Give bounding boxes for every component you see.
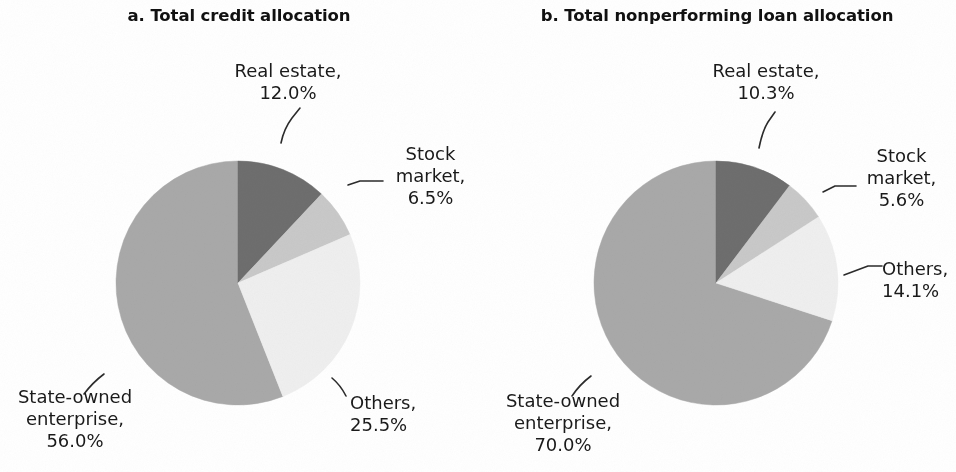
label-real-estate: Real estate, 12.0% [218, 60, 358, 104]
label-state-owned-enterprise: State-owned enterprise, 70.0% [488, 390, 638, 456]
label-stock-market-line3: 6.5% [383, 187, 478, 209]
label-real-estate-line2: 12.0% [218, 82, 358, 104]
leader-line-stock-market [348, 181, 383, 185]
leader-line-real-estate [759, 112, 775, 148]
label-others-line1: Others, [350, 392, 478, 414]
panel-b-slices [594, 161, 838, 405]
label-real-estate-line2: 10.3% [696, 82, 836, 104]
panel-a-slices [116, 161, 360, 405]
label-others: Others, 14.1% [882, 258, 956, 302]
label-state-owned-line2: enterprise, [488, 412, 638, 434]
label-stock-market-line1: Stock [383, 143, 478, 165]
label-state-owned-line3: 56.0% [0, 430, 150, 452]
label-others-line2: 25.5% [350, 414, 478, 436]
label-stock-market-line2: market, [854, 167, 949, 189]
label-others-line1: Others, [882, 258, 956, 280]
label-state-owned-line3: 70.0% [488, 434, 638, 456]
label-real-estate-line1: Real estate, [218, 60, 358, 82]
label-state-owned-line1: State-owned [488, 390, 638, 412]
label-stock-market-line3: 5.6% [854, 189, 949, 211]
label-stock-market: Stock market, 5.6% [854, 145, 949, 211]
leader-line-others [844, 266, 882, 275]
label-state-owned-line1: State-owned [0, 386, 150, 408]
label-stock-market: Stock market, 6.5% [383, 143, 478, 209]
leader-line-real-estate [281, 108, 300, 143]
label-real-estate: Real estate, 10.3% [696, 60, 836, 104]
leader-line-stock-market [823, 186, 856, 192]
label-others-line2: 14.1% [882, 280, 956, 302]
label-stock-market-line1: Stock [854, 145, 949, 167]
label-state-owned-enterprise: State-owned enterprise, 56.0% [0, 386, 150, 452]
label-state-owned-line2: enterprise, [0, 408, 150, 430]
label-real-estate-line1: Real estate, [696, 60, 836, 82]
panel-total-nonperforming-loan-allocation: b. Total nonperforming loan allocation R… [478, 0, 956, 472]
label-stock-market-line2: market, [383, 165, 478, 187]
panel-total-credit-allocation: a. Total credit allocation Real estate, … [0, 0, 478, 472]
label-others: Others, 25.5% [350, 392, 478, 436]
pie-chart-figure: a. Total credit allocation Real estate, … [0, 0, 956, 472]
leader-line-others [332, 378, 346, 396]
